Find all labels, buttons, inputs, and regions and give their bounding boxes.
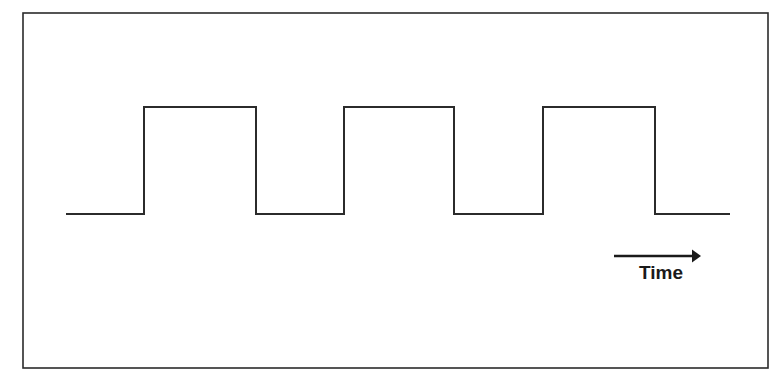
time-arrow-head-icon xyxy=(692,250,701,263)
figure-container: Time xyxy=(0,0,783,382)
square-wave-trace xyxy=(66,107,730,214)
figure-border xyxy=(23,13,768,368)
square-wave-figure: Time xyxy=(0,0,783,382)
time-axis-label: Time xyxy=(639,262,683,283)
